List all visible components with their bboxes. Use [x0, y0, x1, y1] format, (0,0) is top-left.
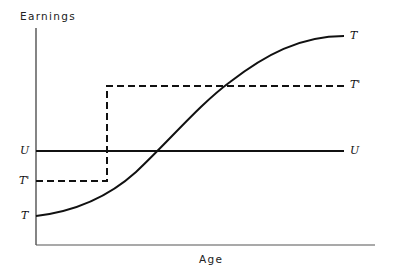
left-label-t-prime: T' [19, 174, 29, 187]
y-axis-label: Earnings [20, 10, 76, 22]
right-label-u: U [350, 144, 359, 157]
series-t-curve [36, 36, 344, 216]
series-t-prime-line [36, 86, 344, 181]
x-axis-label: Age [199, 253, 223, 265]
right-label-t-prime: T' [350, 78, 360, 91]
chart-canvas [0, 0, 403, 277]
right-label-t: T [350, 29, 357, 42]
earnings-age-chart: Earnings Age U T' T T T' U [0, 0, 403, 277]
left-label-u: U [20, 144, 29, 157]
left-label-t: T [21, 209, 28, 222]
